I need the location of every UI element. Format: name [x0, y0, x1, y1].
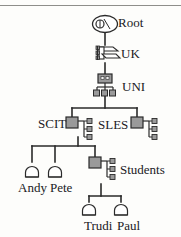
- computer-icon-pete: [49, 167, 62, 178]
- computer-icon-trudi: [83, 205, 96, 215]
- lan-icon-hub-port-b: [106, 77, 109, 80]
- node-root[interactable]: [93, 16, 118, 33]
- page-rule: [0, 5, 181, 6]
- node-label-pete: Pete: [50, 181, 72, 194]
- node-label-root: Root: [118, 16, 143, 29]
- node-scit[interactable]: [66, 117, 92, 140]
- lan-icon-host-2: [102, 90, 108, 96]
- node-students[interactable]: [89, 157, 115, 180]
- server-icon-scit-chip-1: [87, 119, 92, 124]
- server-icon-sles-chip-3: [152, 135, 157, 140]
- node-label-trudi: Trudi: [84, 219, 112, 232]
- lan-icon-hub-port-a: [101, 77, 104, 80]
- node-label-scit: SCIT: [38, 117, 66, 130]
- lan-icon-host-3: [110, 90, 116, 96]
- server-icon-students: [89, 157, 101, 168]
- node-label-paul: Paul: [117, 219, 140, 232]
- computer-icon-paul: [115, 205, 128, 215]
- server-icon-scit-chip-3: [87, 135, 92, 140]
- server-icon-students-chip-1: [110, 159, 115, 164]
- server-icon-sles: [131, 117, 143, 128]
- tree-canvas: [0, 0, 181, 237]
- server-icon-sles-chip-1: [152, 119, 157, 124]
- node-uk[interactable]: [96, 46, 120, 60]
- server-icon-scit: [66, 117, 78, 128]
- server-icon-students-chip-3: [110, 175, 115, 180]
- lan-icon-hub: [98, 74, 112, 83]
- computer-icon-andy: [26, 167, 39, 178]
- node-label-students: Students: [120, 163, 165, 176]
- node-label-andy: Andy: [18, 181, 47, 194]
- node-label-uk: UK: [121, 47, 140, 60]
- lan-icon-host-1: [94, 90, 100, 96]
- node-trudi[interactable]: [83, 205, 96, 215]
- node-pete[interactable]: [49, 167, 62, 178]
- node-paul[interactable]: [115, 205, 128, 215]
- server-icon-scit-chip-2: [87, 127, 92, 132]
- node-label-uni: UNI: [122, 80, 145, 93]
- node-andy[interactable]: [26, 167, 39, 178]
- node-label-sles: SLES: [98, 118, 128, 131]
- server-icon-uk-front: [102, 54, 120, 58]
- server-icon-students-chip-2: [110, 167, 115, 172]
- node-uni[interactable]: [94, 74, 116, 96]
- network-hierarchy-diagram: Root UK UNI SCIT SLES Andy Pete Students…: [0, 0, 181, 237]
- node-sles[interactable]: [131, 117, 157, 140]
- server-icon-sles-chip-2: [152, 127, 157, 132]
